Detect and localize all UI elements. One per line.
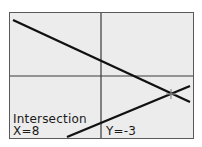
x-value-readout: X=8: [13, 125, 40, 137]
y-value-readout: Y=-3: [106, 125, 136, 137]
